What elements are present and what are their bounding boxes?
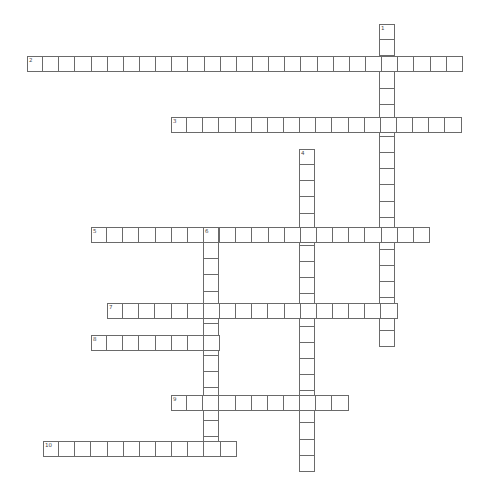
crossword-cell[interactable] [106, 227, 123, 243]
crossword-cell[interactable] [397, 227, 414, 243]
crossword-cell[interactable] [316, 227, 333, 243]
crossword-cell[interactable] [299, 180, 315, 197]
crossword-cell[interactable] [348, 227, 365, 243]
crossword-cell[interactable] [122, 335, 139, 351]
crossword-cell[interactable] [155, 335, 172, 351]
crossword-cell[interactable] [155, 56, 172, 72]
crossword-cell[interactable] [412, 117, 429, 133]
crossword-cell[interactable] [428, 117, 445, 133]
crossword-cell[interactable] [379, 168, 395, 185]
crossword-cell[interactable] [284, 303, 301, 319]
crossword-cell[interactable] [252, 56, 269, 72]
crossword-cell[interactable] [364, 227, 381, 243]
crossword-cell[interactable] [381, 56, 398, 72]
crossword-cell[interactable] [155, 227, 172, 243]
crossword-cell[interactable]: 10 [43, 441, 59, 457]
crossword-cell[interactable] [379, 281, 395, 298]
crossword-cell[interactable] [74, 441, 91, 457]
crossword-cell[interactable] [202, 117, 219, 133]
crossword-cell[interactable] [251, 395, 268, 411]
crossword-cell[interactable] [235, 117, 252, 133]
crossword-cell[interactable] [139, 56, 156, 72]
crossword-cell[interactable] [379, 71, 395, 88]
crossword-cell[interactable] [123, 56, 140, 72]
crossword-cell[interactable] [218, 395, 235, 411]
crossword-cell[interactable] [203, 258, 219, 275]
crossword-cell[interactable] [107, 56, 124, 72]
crossword-cell[interactable] [332, 303, 349, 319]
crossword-cell[interactable] [300, 56, 317, 72]
crossword-cell[interactable] [203, 303, 220, 319]
crossword-cell[interactable] [348, 117, 365, 133]
crossword-cell[interactable] [299, 261, 315, 278]
crossword-cell[interactable] [396, 117, 413, 133]
crossword-cell[interactable]: 1 [379, 24, 395, 40]
crossword-cell[interactable] [379, 136, 395, 153]
crossword-cell[interactable] [365, 56, 382, 72]
crossword-cell[interactable]: 4 [299, 149, 315, 165]
crossword-cell[interactable] [203, 371, 219, 388]
crossword-cell[interactable] [139, 441, 156, 457]
crossword-cell[interactable] [331, 395, 348, 411]
crossword-cell[interactable]: 5 [91, 227, 107, 243]
crossword-cell[interactable] [235, 395, 252, 411]
crossword-cell[interactable] [397, 56, 414, 72]
crossword-cell[interactable] [316, 303, 333, 319]
crossword-cell[interactable] [171, 335, 188, 351]
crossword-cell[interactable] [187, 227, 204, 243]
crossword-cell[interactable] [187, 335, 204, 351]
crossword-cell[interactable] [315, 395, 332, 411]
crossword-cell[interactable] [446, 56, 463, 72]
crossword-cell[interactable] [380, 303, 397, 319]
crossword-cell[interactable] [300, 303, 317, 319]
crossword-cell[interactable] [155, 441, 172, 457]
crossword-cell[interactable] [300, 227, 317, 243]
crossword-cell[interactable] [204, 56, 221, 72]
crossword-cell[interactable] [364, 303, 381, 319]
crossword-cell[interactable]: 9 [171, 395, 187, 411]
crossword-cell[interactable] [299, 117, 316, 133]
crossword-cell[interactable] [299, 358, 315, 375]
crossword-cell[interactable] [203, 441, 220, 457]
crossword-cell[interactable] [284, 56, 301, 72]
crossword-cell[interactable] [106, 335, 123, 351]
crossword-cell[interactable] [58, 441, 75, 457]
crossword-cell[interactable] [379, 201, 395, 218]
crossword-cell[interactable] [220, 56, 237, 72]
crossword-cell[interactable] [202, 395, 219, 411]
crossword-cell[interactable] [268, 56, 285, 72]
crossword-cell[interactable] [379, 330, 395, 347]
crossword-cell[interactable] [381, 227, 398, 243]
crossword-cell[interactable] [444, 117, 461, 133]
crossword-cell[interactable] [235, 303, 252, 319]
crossword-cell[interactable] [317, 56, 334, 72]
crossword-cell[interactable] [315, 117, 332, 133]
crossword-cell[interactable] [187, 56, 204, 72]
crossword-cell[interactable] [235, 227, 252, 243]
crossword-cell[interactable] [379, 265, 395, 282]
crossword-cell[interactable] [91, 56, 108, 72]
crossword-cell[interactable] [284, 227, 301, 243]
crossword-cell[interactable] [122, 227, 139, 243]
crossword-cell[interactable] [236, 56, 253, 72]
crossword-cell[interactable] [218, 117, 235, 133]
crossword-cell[interactable] [379, 152, 395, 169]
crossword-cell[interactable] [171, 303, 188, 319]
crossword-cell[interactable] [107, 441, 124, 457]
crossword-cell[interactable] [203, 420, 219, 437]
crossword-cell[interactable] [219, 227, 236, 243]
crossword-cell[interactable] [138, 227, 155, 243]
crossword-cell[interactable] [171, 227, 188, 243]
crossword-cell[interactable] [299, 245, 315, 262]
crossword-cell[interactable] [332, 227, 349, 243]
crossword-cell[interactable] [251, 303, 268, 319]
crossword-cell[interactable] [268, 227, 285, 243]
crossword-cell[interactable] [267, 303, 284, 319]
crossword-cell[interactable] [333, 56, 350, 72]
crossword-cell[interactable] [171, 441, 188, 457]
crossword-cell[interactable] [413, 227, 430, 243]
crossword-cell[interactable] [267, 395, 284, 411]
crossword-cell[interactable] [251, 227, 268, 243]
crossword-cell[interactable] [299, 395, 316, 411]
crossword-cell[interactable] [138, 335, 155, 351]
